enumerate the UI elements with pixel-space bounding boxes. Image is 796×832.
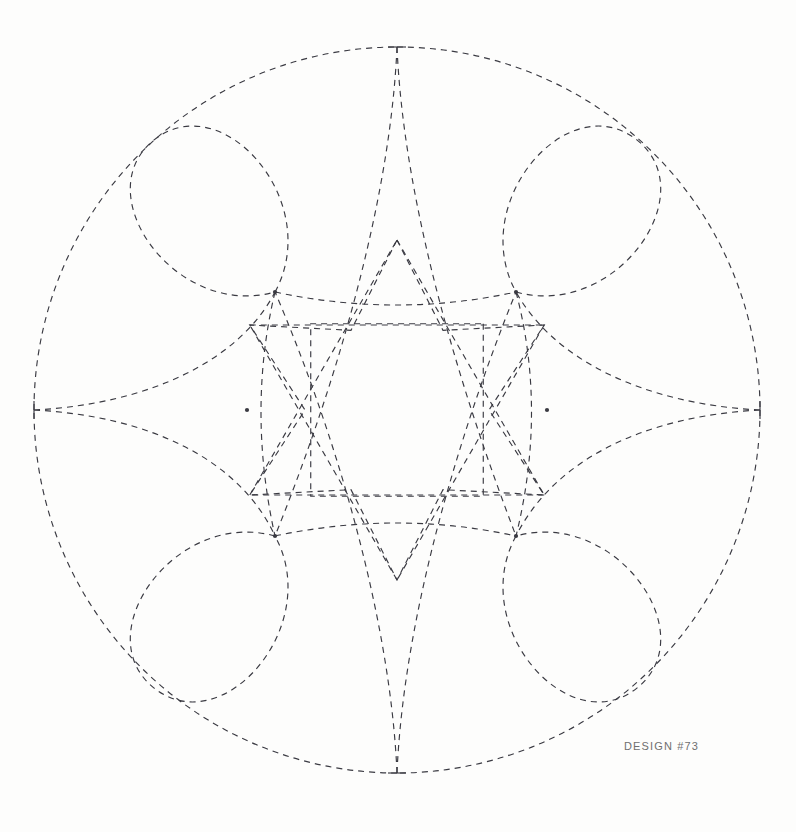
sweep-curve bbox=[34, 410, 275, 536]
node-connector-curve bbox=[516, 292, 532, 536]
inner-star-polygon bbox=[250, 240, 544, 580]
petal-loop bbox=[503, 532, 661, 702]
node-dot bbox=[245, 408, 249, 412]
node-dot bbox=[514, 290, 518, 294]
sweep-curve bbox=[34, 292, 275, 410]
petal-loop bbox=[503, 126, 661, 296]
node-dot bbox=[545, 408, 549, 412]
node-connector-curve bbox=[261, 292, 275, 536]
sweep-curve bbox=[397, 47, 516, 536]
petal-loops bbox=[34, 47, 760, 773]
node-dot bbox=[273, 534, 277, 538]
petal-loop bbox=[130, 532, 288, 702]
star-chord bbox=[250, 325, 397, 580]
node-dot bbox=[273, 290, 277, 294]
inner-star-path bbox=[250, 240, 544, 580]
star-chord bbox=[250, 240, 397, 495]
design-label: DESIGN #73 bbox=[624, 740, 699, 752]
star-chord bbox=[397, 325, 544, 580]
node-dot bbox=[514, 534, 518, 538]
geometric-design-figure bbox=[0, 0, 796, 832]
petal-loop bbox=[130, 126, 288, 296]
inner-diamond-path bbox=[311, 324, 484, 497]
figure-group bbox=[34, 47, 760, 773]
sweep-curve bbox=[516, 292, 760, 410]
star-chord bbox=[397, 240, 544, 495]
node-connector-curve bbox=[275, 523, 516, 536]
sweep-curve bbox=[275, 47, 397, 536]
outer-circle-arc bbox=[397, 47, 760, 410]
node-connector-curve bbox=[275, 292, 516, 305]
outer-circle-arc bbox=[34, 47, 397, 410]
design-page: DESIGN #73 bbox=[0, 0, 796, 832]
sweep-curve bbox=[516, 410, 760, 536]
outer-circle-arc bbox=[34, 410, 397, 773]
